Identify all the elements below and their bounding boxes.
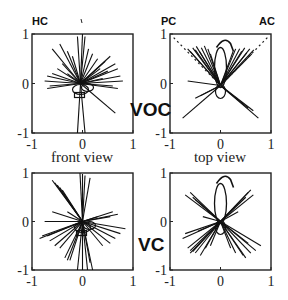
vector-ray [67, 212, 82, 222]
panel-voc-top: -10110-1 [155, 27, 274, 152]
vector-ray [77, 84, 80, 134]
y-tick-label: 0 [22, 215, 29, 230]
panel-voc-front: -10110-1 [17, 27, 136, 152]
y-tick-label: 0 [160, 77, 167, 92]
trajectory-hook [217, 40, 234, 51]
trajectory-loop [216, 85, 226, 99]
panel-vc-top: -10110-1 [155, 166, 274, 289]
x-tick-label: 1 [268, 137, 275, 152]
vector-ray [62, 190, 82, 222]
top-view-caption: top view [194, 149, 246, 165]
pc-label: PC [161, 15, 176, 27]
y-tick-label: 1 [22, 166, 29, 181]
y-tick-label: -1 [17, 263, 29, 278]
hc-label: HC [32, 15, 48, 27]
x-tick-label: 0 [79, 274, 86, 289]
trajectory-loop [215, 184, 227, 224]
figure-canvas: -10110-1-10110-1-10110-1-10110-1 HC PC A… [0, 0, 288, 300]
voc-row-label: VOC [130, 99, 171, 120]
y-tick-label: 1 [22, 27, 29, 42]
x-tick-label: 1 [130, 137, 137, 152]
y-tick-label: 1 [160, 166, 167, 181]
front-view-caption: front view [51, 149, 113, 165]
hc-tick-mark [81, 19, 82, 23]
panel-vc-front: -10110-1 [17, 166, 136, 289]
y-tick-label: 0 [160, 215, 167, 230]
vector-ray [183, 86, 221, 119]
y-tick-label: 0 [22, 77, 29, 92]
dashed-guide [173, 36, 221, 85]
x-tick-label: 1 [268, 274, 275, 289]
vector-ray [81, 56, 111, 83]
y-tick-label: -1 [155, 126, 167, 141]
vector-ray [188, 81, 221, 85]
vc-row-label: VC [138, 234, 165, 255]
ac-label: AC [259, 15, 275, 27]
y-tick-label: -1 [155, 263, 167, 278]
x-tick-label: 1 [130, 274, 137, 289]
y-tick-label: 1 [160, 27, 167, 42]
y-tick-label: -1 [17, 126, 29, 141]
trajectory-loop [215, 48, 227, 88]
vector-ray [52, 212, 82, 222]
trajectory-hook [217, 176, 234, 187]
x-tick-label: 0 [217, 274, 224, 289]
